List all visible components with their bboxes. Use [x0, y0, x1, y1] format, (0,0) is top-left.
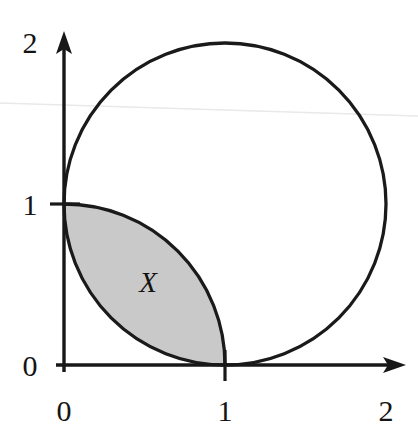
figure-root: 2 1 0 0 1 2 X: [0, 0, 418, 433]
y-tick-label-2: 2: [23, 26, 38, 59]
x-tick-label-1: 1: [218, 394, 233, 427]
region-label-x: X: [138, 266, 158, 298]
y-tick-label-0: 0: [23, 349, 38, 382]
x-tick-label-0: 0: [57, 394, 72, 427]
y-tick-label-1: 1: [23, 188, 38, 221]
x-tick-label-2: 2: [379, 394, 394, 427]
large-circle: [64, 43, 386, 365]
geometry-diagram: 2 1 0 0 1 2 X: [0, 0, 418, 433]
